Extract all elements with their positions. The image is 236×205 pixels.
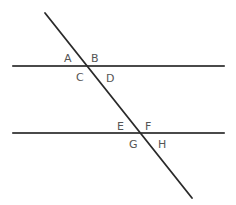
angle-label-a: A xyxy=(64,52,72,65)
angle-label-e: E xyxy=(117,120,124,133)
transversal-diagram: A B C D E F G H xyxy=(0,0,236,205)
angle-label-g: G xyxy=(129,138,138,151)
angle-label-c: C xyxy=(76,71,84,84)
angle-label-h: H xyxy=(158,138,166,151)
angle-label-b: B xyxy=(91,52,99,65)
angle-label-d: D xyxy=(106,72,114,85)
transversal-line xyxy=(45,13,192,198)
angle-label-f: F xyxy=(145,120,151,133)
